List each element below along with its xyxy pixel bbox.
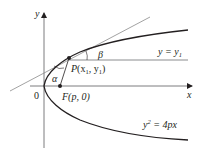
tangent-line (10, 17, 150, 91)
y-axis-label: y (34, 8, 40, 19)
point-p (67, 56, 71, 60)
x-axis-label: x (186, 89, 192, 100)
beta-label: β (97, 49, 103, 60)
origin-label: 0 (34, 90, 39, 101)
point-f (58, 84, 62, 88)
parabola-equation-label: y2 = 4px (142, 118, 177, 130)
point-f-label: F(p, 0) (61, 91, 90, 103)
point-p-label: P(x1, y1) (70, 63, 105, 75)
alpha-label: α (52, 73, 58, 84)
parabola-diagram: y x 0 α β P(x1, y1) F(p, 0) y = y1 y2 = … (0, 0, 200, 151)
horizontal-line-label: y = y1 (157, 46, 182, 58)
beta-arc (86, 51, 87, 60)
